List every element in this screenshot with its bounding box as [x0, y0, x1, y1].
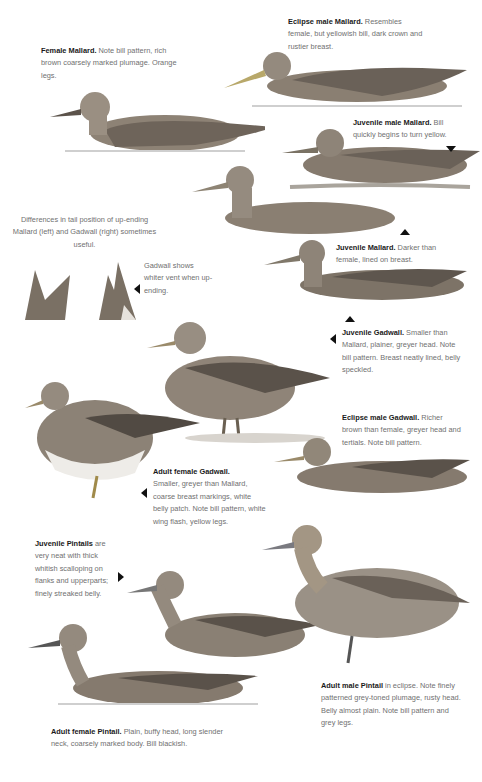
pointer-right-icon [118, 572, 124, 582]
pointer-left-icon [134, 284, 140, 294]
juvenile-mallard-illustration [190, 160, 400, 240]
caption-juvenile-mallard: Juvenile Mallard. Darker than female, li… [336, 242, 456, 267]
caption-upending-note: Differences in tail position of up-endin… [12, 214, 157, 251]
caption-adult-male-pintail: Adult male Pintail in eclipse. Note fine… [321, 680, 461, 730]
caption-title: Juvenile male Mallard. [353, 118, 431, 127]
caption-gadwall-vent: Gadwall shows whiter vent when up-ending… [144, 260, 214, 297]
pointer-left-icon [141, 488, 147, 498]
caption-title: Juvenile Mallard. [336, 243, 396, 252]
upending-mallard-tail-illustration [20, 265, 75, 320]
caption-title: Female Mallard. [41, 46, 96, 55]
pointer-down-icon [446, 146, 456, 152]
adult-male-pintail-illustration [262, 518, 472, 668]
pointer-left-icon [330, 334, 336, 344]
caption-female-mallard: Female Mallard. Note bill pattern, rich … [41, 45, 181, 82]
upending-gadwall-tail-illustration [96, 260, 138, 320]
caption-title: Adult female Pintail. [51, 727, 122, 736]
caption-adult-female-pintail: Adult female Pintail. Plain, buffy head,… [51, 726, 231, 751]
caption-eclipse-male-gadwall: Eclipse male Gadwall. Richer brown than … [342, 412, 464, 449]
pointer-up-icon [345, 316, 355, 322]
caption-eclipse-male-mallard: Eclipse male Mallard. Resembles female, … [288, 16, 426, 53]
caption-title: Eclipse male Mallard. [288, 17, 363, 26]
caption-juvenile-male-mallard: Juvenile male Mallard. Bill quickly begi… [353, 117, 468, 142]
adult-female-pintail-illustration [28, 618, 268, 713]
pointer-up-icon [400, 229, 410, 235]
caption-juvenile-pintails: Juvenile Pintails are very neat with thi… [35, 538, 121, 600]
caption-title: Eclipse male Gadwall. [342, 413, 419, 422]
caption-title: Adult female Gadwall. [153, 466, 268, 478]
eclipse-male-mallard-illustration [222, 48, 472, 113]
caption-adult-female-gadwall: Adult female Gadwall. Smaller, greyer th… [153, 466, 268, 528]
caption-title: Juvenile Pintails [35, 539, 93, 548]
caption-title: Juvenile Gadwall. [342, 328, 404, 337]
caption-juvenile-gadwall: Juvenile Gadwall. Smaller than Mallard, … [342, 327, 462, 377]
caption-title: Adult male Pintail [321, 681, 383, 690]
